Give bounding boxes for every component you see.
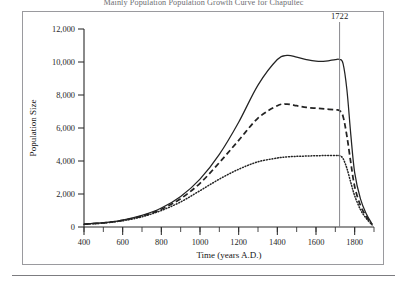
annotation-group: 1722: [331, 11, 348, 227]
x-tick-label: 1200: [230, 238, 247, 247]
x-axis-tick-labels: 40060080010001200140016001800: [78, 238, 363, 247]
y-axis-ticks: [78, 29, 84, 227]
y-axis: 02,0004,0006,0008,00010,00012,000 Popula…: [28, 25, 84, 232]
x-axis-title: Time (years A.D.): [196, 250, 261, 260]
population-growth-chart: 02,0004,0006,0008,00010,00012,000 Popula…: [22, 11, 384, 265]
x-tick-label: 600: [116, 238, 129, 247]
x-axis: 40060080010001200140016001800 Time (year…: [78, 227, 374, 260]
y-tick-label: 8,000: [56, 91, 75, 100]
x-tick-label: 800: [155, 238, 168, 247]
y-axis-title: Population Size: [28, 100, 38, 157]
y-tick-label: 2,000: [56, 190, 75, 199]
bottom-divider-rule: [12, 275, 395, 276]
figure-root: Mainly Population Population Growth Curv…: [0, 0, 407, 287]
data-series-group: [84, 55, 372, 225]
y-tick-label: 10,000: [52, 58, 75, 67]
x-tick-label: 1600: [308, 238, 325, 247]
x-tick-label: 1000: [192, 238, 209, 247]
annotation-label-1722: 1722: [331, 11, 348, 21]
y-tick-label: 12,000: [52, 25, 75, 34]
y-axis-tick-labels: 02,0004,0006,0008,00010,00012,000: [52, 25, 75, 232]
x-axis-minor-ticks: [84, 227, 374, 232]
x-tick-label: 400: [78, 238, 91, 247]
y-tick-label: 0: [71, 223, 75, 232]
figure-title: Mainly Population Population Growth Curv…: [0, 0, 407, 8]
series-high-estimate: [84, 55, 372, 224]
series-low-estimate: [84, 155, 372, 224]
x-tick-label: 1800: [346, 238, 363, 247]
series-middle-estimate: [84, 104, 372, 225]
x-tick-label: 1400: [269, 238, 286, 247]
y-tick-label: 4,000: [56, 157, 75, 166]
y-tick-label: 6,000: [56, 124, 75, 133]
